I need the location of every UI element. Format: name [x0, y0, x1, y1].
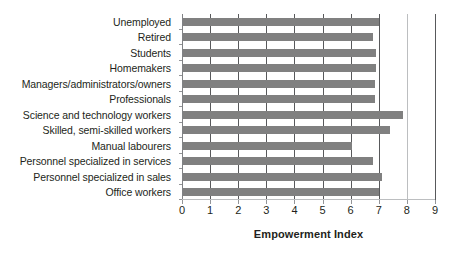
bar: [182, 157, 373, 165]
bar-row: [182, 76, 435, 92]
bar-series: [182, 14, 435, 200]
bar-row: [182, 169, 435, 185]
bar-row: [182, 30, 435, 46]
bar: [182, 95, 375, 103]
category-axis: Unemployed Retired Students Homemakers M…: [0, 14, 176, 200]
category-label: Students: [0, 45, 176, 61]
bar-row: [182, 14, 435, 30]
x-tick-label: 1: [207, 205, 213, 216]
bar-row: [182, 154, 435, 170]
bar-row: [182, 107, 435, 123]
bar: [182, 49, 376, 57]
y-axis-line: [182, 14, 183, 200]
bar-row: [182, 92, 435, 108]
bar: [182, 18, 379, 26]
category-label: Unemployed: [0, 14, 176, 30]
x-tick-label: 6: [348, 205, 354, 216]
x-tick-label: 2: [235, 205, 241, 216]
category-label: Managers/administrators/owners: [0, 76, 176, 92]
bar: [182, 126, 390, 134]
empowerment-index-bar-chart: Unemployed Retired Students Homemakers M…: [0, 0, 461, 255]
bar: [182, 173, 382, 181]
x-tick-label: 5: [319, 205, 325, 216]
bar-row: [182, 138, 435, 154]
x-tick-label: 4: [291, 205, 297, 216]
bar: [182, 111, 403, 119]
category-label: Manual labourers: [0, 138, 176, 154]
bar-row: [182, 45, 435, 61]
x-tick-label: 3: [263, 205, 269, 216]
x-tick-label: 7: [376, 205, 382, 216]
category-label: Science and technology workers: [0, 107, 176, 123]
x-axis-title: Empowerment Index: [182, 228, 435, 240]
category-label: Office workers: [0, 185, 176, 201]
gridline-9: [435, 14, 436, 200]
bar-row: [182, 185, 435, 201]
category-label: Professionals: [0, 92, 176, 108]
x-tick-label: 9: [432, 205, 438, 216]
plot-area: [182, 14, 435, 200]
bar: [182, 188, 379, 196]
category-label: Personnel specialized in services: [0, 154, 176, 170]
category-label: Homemakers: [0, 61, 176, 77]
bar: [182, 64, 376, 72]
category-label: Skilled, semi-skilled workers: [0, 123, 176, 139]
x-tick-label: 0: [179, 205, 185, 216]
bar: [182, 33, 373, 41]
category-label: Retired: [0, 30, 176, 46]
bar: [182, 80, 375, 88]
x-axis: 0123456789: [182, 200, 435, 220]
category-label: Personnel specialized in sales: [0, 169, 176, 185]
x-tick-label: 8: [404, 205, 410, 216]
bar-row: [182, 61, 435, 77]
bar: [182, 142, 352, 150]
bar-row: [182, 123, 435, 139]
